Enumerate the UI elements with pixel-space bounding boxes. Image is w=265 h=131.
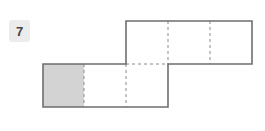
shaded-face bbox=[43, 64, 84, 107]
cube-net-diagram bbox=[0, 0, 265, 131]
